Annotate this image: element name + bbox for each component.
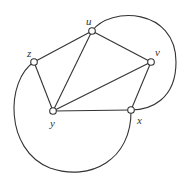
edge-z-u [34, 31, 92, 62]
label-v: v [155, 46, 160, 58]
edge-y-v [53, 62, 151, 111]
node-v [148, 59, 155, 66]
label-z: z [26, 47, 32, 59]
edge-y-x [53, 110, 131, 111]
edge-u-x-arc [92, 16, 176, 110]
edge-u-y [53, 31, 92, 111]
edge-u-v [92, 31, 151, 62]
node-x [128, 107, 135, 114]
graph-diagram: u z v y x [0, 0, 185, 183]
node-z [31, 59, 38, 66]
node-u [89, 28, 96, 35]
node-y [50, 108, 57, 115]
edge-v-x [131, 62, 151, 110]
edge-z-y [34, 62, 53, 111]
label-y: y [49, 117, 55, 129]
label-u: u [86, 15, 92, 27]
edges [14, 16, 176, 173]
label-x: x [136, 114, 142, 126]
edge-z-x-arc [14, 62, 131, 172]
